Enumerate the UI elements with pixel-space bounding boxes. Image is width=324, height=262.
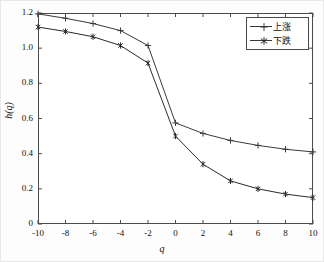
y-tick-label: 1.0 (0, 42, 33, 52)
x-tick-label: 8 (271, 228, 301, 238)
x-tick-label: 10 (298, 228, 324, 238)
x-tick-label: -2 (133, 228, 163, 238)
legend-label-fall: 下跌 (273, 35, 291, 47)
figure-canvas: 00.20.40.60.81.01.2 -10-8-6-4-20246810 q… (0, 0, 324, 262)
x-tick-label: 0 (161, 228, 191, 238)
chart-legend: 上涨 下跌 (246, 17, 309, 50)
legend-item-fall[interactable]: 下跌 (249, 34, 308, 48)
y-tick-label: 0.4 (0, 148, 33, 158)
x-tick-label: -8 (51, 228, 81, 238)
legend-marker-asterisk-icon (249, 35, 273, 47)
y-tick-label: 1.2 (0, 7, 33, 17)
legend-label-rise: 上涨 (273, 21, 291, 33)
x-tick-label: 2 (188, 228, 218, 238)
x-tick-label: 6 (243, 228, 273, 238)
x-tick-label: 4 (216, 228, 246, 238)
legend-item-rise[interactable]: 上涨 (249, 20, 308, 34)
x-axis-label: q (0, 243, 324, 254)
x-tick-label: -6 (78, 228, 108, 238)
y-tick-label: 0 (0, 218, 33, 228)
legend-marker-plus-icon (249, 21, 273, 33)
x-tick-label: -10 (23, 228, 53, 238)
x-tick-label: -4 (106, 228, 136, 238)
y-tick-label: 0.8 (0, 77, 33, 87)
y-tick-label: 0.2 (0, 183, 33, 193)
y-axis-label: h(q) (3, 89, 14, 133)
